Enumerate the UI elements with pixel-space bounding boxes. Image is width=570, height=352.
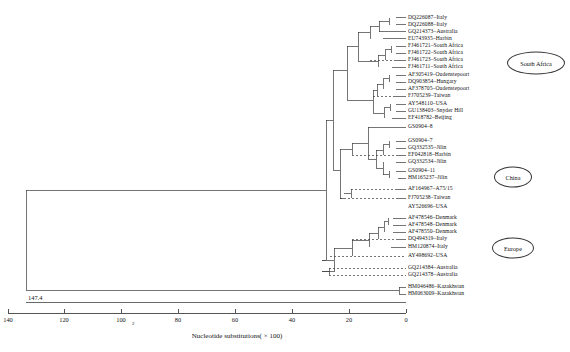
tip-label: EF418782–Beijing	[408, 115, 452, 121]
tip-label: HM063009–Kazakhstan	[408, 291, 464, 297]
clade-china-join	[352, 143, 360, 155]
clade-italy-pair	[379, 18, 389, 25]
tip-label: HM165237–Jilin	[408, 175, 447, 181]
tip-label: AF478546–Denmark	[408, 215, 457, 221]
root-branch-length-label: 147.4	[28, 294, 42, 301]
tip-label: FJ461723–South Africa	[408, 57, 463, 63]
clade-with-harbin	[358, 26, 370, 39]
clade-oudenstepoort	[373, 75, 389, 96]
tip-label: EF042818–Harbin	[408, 152, 451, 158]
tree-branch-diagram	[0, 0, 570, 352]
tip-branches	[383, 18, 406, 295]
tip-label: GQ214373–Australia	[408, 29, 458, 35]
tip-label: FJ461711–South Africa	[408, 64, 463, 70]
tip-label: AF305419–Oudenstepoort	[408, 72, 469, 78]
clade-lower-join	[26, 120, 326, 290]
tip-label: FJ461722–South Africa	[408, 50, 463, 56]
tip-label: AF378705–Oudenstepoort	[408, 86, 469, 92]
phylogenetic-tree-figure: DQ226087–Italy DQ226088–Italy GQ214373–A…	[0, 0, 570, 352]
tip-label: GS0904–7	[408, 138, 433, 144]
axis-tick-label: 120	[59, 316, 69, 323]
clade-usa-snyder-beijing	[377, 104, 390, 118]
tip-label: AY548110–USA	[408, 101, 447, 107]
axis-tick-label: 0	[404, 316, 407, 323]
clade-italy-australia	[370, 21, 396, 32]
tip-label: AY498692–USA	[408, 253, 447, 259]
tip-label: GQ332534–Jilin	[408, 159, 446, 165]
tip-label: HM046486–Kazakhstan	[408, 284, 464, 290]
region-badge-china: China	[494, 167, 532, 188]
region-badge-europe: Europe	[492, 238, 534, 259]
clade-ouden-usa-join	[362, 90, 377, 113]
axis-tick-label: 100	[116, 316, 126, 323]
tip-label: AF478548–Denmark	[408, 222, 457, 228]
axis-tick-label: 80	[175, 316, 181, 323]
clade-china	[360, 127, 396, 178]
tip-label: GQ332535–Jilin	[408, 145, 446, 151]
axis-tick-label: 40	[289, 316, 295, 323]
axis-caption: Nucleotide substitutions( × 100)	[192, 332, 282, 340]
x-axis	[8, 309, 406, 313]
axis-subscript-marker: 2	[132, 321, 135, 326]
axis-tick-label: 20	[346, 316, 352, 323]
region-badge-south-africa: South Africa	[507, 52, 565, 75]
dashed-branches	[329, 60, 406, 275]
clade-south-africa	[370, 46, 391, 67]
axis-tick-label: 60	[232, 316, 238, 323]
tip-label: GQ214384–Australia	[408, 265, 458, 271]
tip-label: GQ214378–Australia	[408, 272, 458, 278]
tip-label: DQ226087–Italy	[408, 15, 447, 21]
tip-label: FJ705239–Taiwan	[408, 93, 450, 99]
clade-kazakhstan	[26, 287, 399, 294]
tip-label: AF478550–Denmark	[408, 229, 457, 235]
clade-upper-mid-join	[326, 70, 333, 170]
tip-label: GU138403–Snyder Hill	[408, 108, 463, 114]
tip-label: DQ226088–Italy	[408, 22, 447, 28]
clade-europe-ay498692	[344, 240, 360, 256]
tip-label: FJ461721–South Africa	[408, 43, 463, 49]
clade-mid-major	[333, 149, 352, 198]
clade-sa-join	[347, 32, 370, 61]
axis-tick-label: 140	[3, 316, 13, 323]
tip-label: AF164967–A75/15	[408, 186, 453, 192]
clade-europe	[360, 218, 388, 247]
clade-china-a7515	[344, 189, 351, 198]
tip-label: EU743935–Harbin	[408, 36, 452, 42]
tip-label: GS0904–8	[408, 124, 433, 130]
tip-label: AY526696–USA	[408, 204, 447, 210]
tip-label: DQ903854–Hungary	[408, 79, 457, 85]
tip-label: DQ494319–Italy	[408, 236, 447, 242]
tip-label: GS0904–11	[408, 168, 435, 174]
tip-label: HM120874–Italy	[408, 244, 448, 250]
tip-label: FJ705238–Taiwan	[408, 195, 450, 201]
